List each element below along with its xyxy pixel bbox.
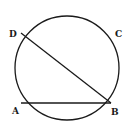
point-label-c: C	[115, 29, 122, 39]
circle-diagram: D C A B	[0, 0, 132, 133]
point-label-a: A	[11, 106, 20, 116]
point-label-b: B	[111, 107, 119, 117]
chord-DB	[21, 33, 111, 103]
diagram-canvas: D C A B	[0, 0, 132, 133]
point-label-d: D	[9, 29, 17, 39]
